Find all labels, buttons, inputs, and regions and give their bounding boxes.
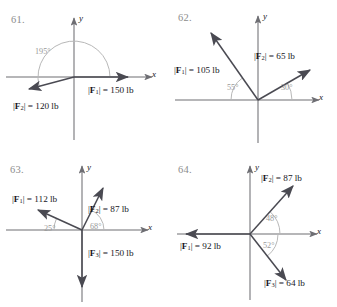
vector-label-F1: |F1| = 112 lb bbox=[12, 195, 57, 204]
panel-62-diagram bbox=[169, 0, 337, 153]
angle-label-68: 68° bbox=[90, 222, 101, 231]
angle-label-195: 195° bbox=[35, 47, 51, 56]
panel-63: 63. x y 25° 68° |F1| = 112 lb |F2| = 87 … bbox=[0, 154, 168, 307]
vector-F2 bbox=[29, 77, 74, 89]
vector-label-F2: |F2| = 65 lb bbox=[254, 52, 295, 61]
y-axis-label: y bbox=[255, 162, 259, 172]
problem-number: 61. bbox=[11, 14, 25, 25]
panel-64-diagram bbox=[169, 154, 337, 307]
y-axis-label: y bbox=[79, 13, 83, 23]
x-axis-label: x bbox=[319, 92, 323, 102]
angle-label-55: 55° bbox=[227, 83, 238, 92]
y-axis-label: y bbox=[87, 162, 91, 172]
y-axis-label: y bbox=[263, 11, 267, 21]
vector-label-F1: |F1| = 92 lb bbox=[180, 242, 221, 251]
angle-label-52: 52° bbox=[263, 241, 274, 250]
angle-label-25: 25° bbox=[44, 224, 55, 233]
vector-F2 bbox=[250, 186, 293, 234]
panel-64: 64. x y 48° 52° |F1| = 92 lb |F2| = 87 l… bbox=[169, 154, 337, 307]
x-axis-label: x bbox=[152, 69, 156, 79]
panel-61: 61. x y 195° |F1| = 150 lb |F2| = 120 lb bbox=[0, 0, 168, 153]
panel-61-diagram bbox=[0, 0, 168, 153]
vector-label-F2: |F2| = 87 lb bbox=[261, 174, 302, 183]
figure-page: 61. x y 195° |F1| = 150 lb |F2| = 120 lb… bbox=[0, 0, 337, 307]
problem-number: 63. bbox=[10, 164, 24, 175]
vector-label-F1: |F1| = 105 lb bbox=[174, 66, 220, 75]
panel-63-diagram bbox=[0, 154, 168, 307]
angle-label-48: 48° bbox=[266, 214, 277, 223]
vector-label-F3: |F3| = 64 lb bbox=[264, 279, 305, 288]
x-axis-label: x bbox=[148, 222, 152, 232]
vector-label-F3: |F3| = 150 lb bbox=[88, 249, 134, 258]
x-axis-label: x bbox=[317, 226, 321, 236]
panel-62: 62. x y 55° 30° |F1| = 105 lb |F2| = 65 … bbox=[169, 0, 337, 153]
vector-label-F2: |F2| = 87 lb bbox=[88, 205, 129, 214]
problem-number: 62. bbox=[178, 12, 192, 23]
angle-label-30: 30° bbox=[281, 83, 292, 92]
problem-number: 64. bbox=[178, 164, 192, 175]
vector-label-F2: |F2| = 120 lb bbox=[13, 102, 59, 111]
vector-label-F1: |F1| = 150 lb bbox=[88, 86, 134, 95]
